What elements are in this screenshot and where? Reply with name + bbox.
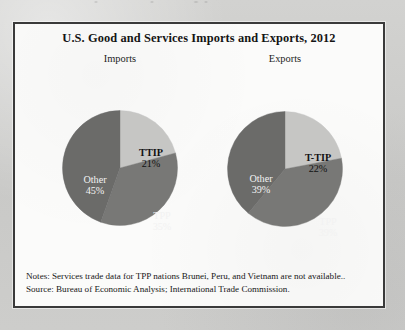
pie-label-exports-tpp-pct: 39% — [301, 227, 355, 238]
figure-title: U.S. Good and Services Imports and Expor… — [15, 31, 383, 46]
figure-notes-line-2: Source: Bureau of Economic Analysis; Int… — [26, 283, 375, 296]
clipped-text-above-figure — [0, 0, 405, 8]
chart-subtitle-imports: Imports — [60, 53, 180, 64]
pie-exports-svg — [227, 111, 343, 227]
figure-notes-line-1: Notes: Services trade data for TPP natio… — [26, 270, 375, 283]
pie-chart-imports — [62, 110, 178, 226]
figure-panel: U.S. Good and Services Imports and Expor… — [13, 22, 385, 308]
pie-imports-svg — [62, 110, 178, 226]
pie-chart-exports — [227, 111, 343, 227]
chart-subtitle-exports: Exports — [225, 53, 345, 64]
figure-notes: Notes: Services trade data for TPP natio… — [26, 270, 375, 296]
